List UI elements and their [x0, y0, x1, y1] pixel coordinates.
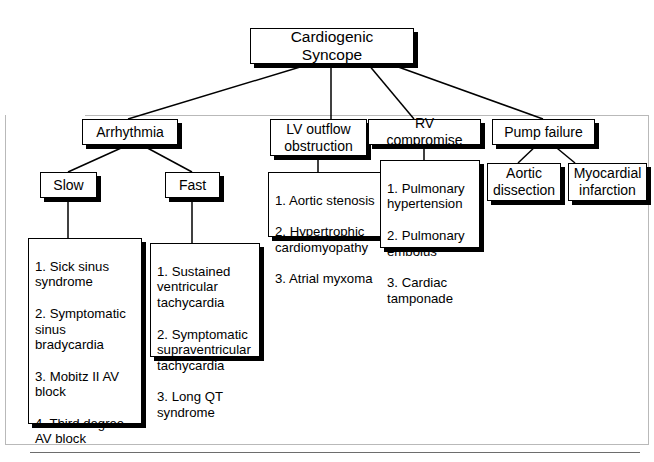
node-label: Myocardial infarction — [574, 165, 642, 198]
list-items: 1. Pulmonary hypertension 2. Pulmonary e… — [387, 165, 465, 322]
list-item: 2. Symptomatic supraventricular tachycar… — [157, 327, 251, 374]
list-item: 3. Cardiac tamponade — [387, 275, 465, 306]
list-item: 3. Mobitz II AV block — [35, 369, 136, 400]
node-label: Pump failure — [504, 124, 583, 141]
node-label: Cardiogenic Syncope — [261, 28, 403, 65]
list-item: 1. Aortic stenosis — [275, 193, 375, 209]
list-rv-compromise-causes[interactable]: 1. Pulmonary hypertension 2. Pulmonary e… — [380, 160, 480, 248]
list-items: 1. Sustained ventricular tachycardia 2. … — [157, 248, 251, 436]
list-items: 1. Sick sinus syndrome 2. Symptomatic si… — [35, 243, 136, 462]
list-item: 2. Symptomatic sinus bradycardia — [35, 306, 136, 353]
node-label: LV outflow obstruction — [284, 121, 352, 154]
list-item: 3. Long QT syndrome — [157, 389, 251, 420]
node-aortic-dissection[interactable]: Aortic dissection — [487, 163, 561, 201]
list-slow-bradyarrhythmias[interactable]: 1. Sick sinus syndrome 2. Symptomatic si… — [28, 238, 142, 424]
node-rv-compromise[interactable]: RV compromise — [368, 119, 481, 145]
node-label: Slow — [53, 177, 83, 194]
node-myocardial-infarction[interactable]: Myocardial infarction — [568, 163, 647, 201]
list-item: 4. Third degree AV block — [35, 416, 136, 447]
list-item: 3. Atrial myxoma — [275, 271, 375, 287]
list-items: 1. Aortic stenosis 2. Hypertrophic cardi… — [275, 177, 375, 303]
list-item: 1. Pulmonary hypertension — [387, 181, 465, 212]
node-arrhythmia[interactable]: Arrhythmia — [82, 119, 178, 145]
list-item: 2. Pulmonary embolus — [387, 228, 465, 259]
node-label: Aortic dissection — [493, 165, 555, 198]
list-lv-outflow-causes[interactable]: 1. Aortic stenosis 2. Hypertrophic cardi… — [268, 172, 390, 237]
list-item: 1. Sick sinus syndrome — [35, 259, 136, 290]
list-fast-tachyarrhythmias[interactable]: 1. Sustained ventricular tachycardia 2. … — [150, 243, 260, 357]
node-lv-outflow-obstruction[interactable]: LV outflow obstruction — [270, 119, 367, 156]
list-item: 2. Hypertrophic cardiomyopathy — [275, 224, 375, 255]
node-pump-failure[interactable]: Pump failure — [492, 119, 595, 145]
node-slow[interactable]: Slow — [40, 172, 97, 198]
figure-canvas: Cardiogenic Syncope Arrhythmia LV outflo… — [0, 0, 654, 462]
node-label: Arrhythmia — [96, 124, 164, 141]
node-label: RV compromise — [379, 115, 470, 148]
list-item: 1. Sustained ventricular tachycardia — [157, 264, 251, 311]
node-fast[interactable]: Fast — [165, 172, 220, 198]
node-label: Fast — [179, 177, 206, 194]
node-cardiogenic-syncope[interactable]: Cardiogenic Syncope — [250, 28, 414, 64]
